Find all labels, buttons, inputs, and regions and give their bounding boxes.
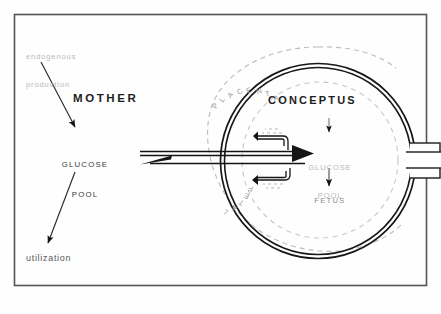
figure-canvas: endogenous production MOTHER GLUCOSE POO… xyxy=(0,0,441,314)
arrow-maternal-pool-to-utilization xyxy=(48,172,75,243)
placental-uptake-upper-loop xyxy=(253,132,288,151)
placental-uptake-upper-dashed xyxy=(262,129,282,133)
diagram-vector-layer xyxy=(0,0,441,314)
arrow-conceptus-to-maternal xyxy=(140,156,305,165)
placenta-letter-7: A xyxy=(273,93,279,103)
fetal-inner-dashed-boundary xyxy=(242,82,398,238)
notch-opening-mask xyxy=(404,152,441,168)
placental-uptake-lower-loop xyxy=(252,168,290,185)
placental-outer-dashed-contour xyxy=(208,47,402,251)
placental-uptake-lower-dashed xyxy=(263,184,283,188)
arrow-endogenous-to-maternal-pool xyxy=(41,62,75,127)
